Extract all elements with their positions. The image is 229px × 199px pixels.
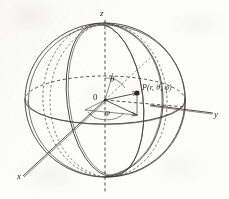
phi-angle-label: φ	[105, 108, 110, 117]
origin-label: 0	[93, 93, 98, 102]
point-p-label: P(r, θ, φ)	[142, 84, 172, 92]
y-axis-label: y	[214, 110, 218, 119]
y-axis	[105, 100, 213, 114]
x-axis-label: x	[17, 172, 21, 181]
z-axis-label: z	[100, 9, 104, 18]
spherical-coordinates-figure: .ink { fill: none; stroke: #35332f; stro…	[0, 0, 229, 199]
theta-angle-label: θ	[110, 75, 114, 84]
figure-canvas: .ink { fill: none; stroke: #35332f; stro…	[0, 0, 229, 199]
origin-marker	[104, 99, 106, 101]
point-p-marker	[134, 90, 139, 95]
meridian-circle-through-p-front	[105, 23, 163, 177]
